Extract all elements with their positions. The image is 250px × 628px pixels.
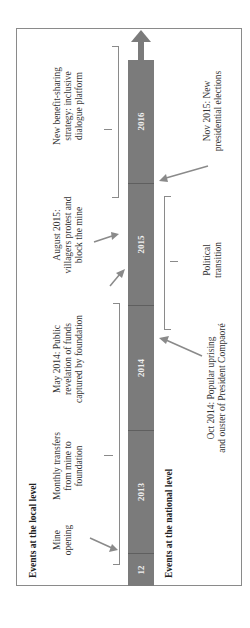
segment-2016: 2016: [128, 60, 154, 183]
elections-arrow-icon: [16, 585, 17, 586]
segment-2012: 12: [128, 553, 154, 586]
segment-2013: 2013: [128, 430, 154, 553]
bracket-benefit-sharing: [112, 46, 119, 198]
segment-2015: 2015: [128, 183, 154, 305]
bracket-transfers-tick: [104, 455, 113, 456]
bracket-benefit-tick: [104, 129, 112, 130]
bracket-transition-tick: [170, 261, 178, 262]
event-oct-2014-uprising: Oct 2014: Popular uprising and ouster of…: [206, 318, 228, 458]
event-political-transition: Political transition: [202, 230, 224, 290]
national-level-title: Events at the national level: [164, 469, 174, 578]
event-new-benefit-sharing: New benefit-sharing strategy: inclusive …: [52, 46, 85, 166]
timeline-diagram: Events at the local level Events at the …: [16, 28, 242, 586]
event-nov-2015-elections: Nov 2015: New presidential elections: [202, 56, 224, 166]
timeline-bar: 12 2013 2014 2015 2016: [128, 60, 154, 586]
segment-2014: 2014: [128, 305, 154, 430]
bracket-transfers-period: [113, 303, 120, 565]
local-level-title: Events at the local level: [28, 483, 38, 578]
event-may-2014-revelation: May 2014: Public revelation of funds cap…: [52, 304, 85, 414]
bracket-political-transition: [164, 196, 171, 330]
event-mine-opening: Mine opening: [52, 518, 74, 562]
timeline-arrowhead-icon: [131, 30, 151, 42]
event-monthly-transfers: Monthly transfers from mine to foundatio…: [52, 418, 85, 514]
timeline-arrow-shaft: [138, 40, 144, 60]
event-august-2015-protest: August 2015: villagers protest and block…: [52, 180, 85, 290]
